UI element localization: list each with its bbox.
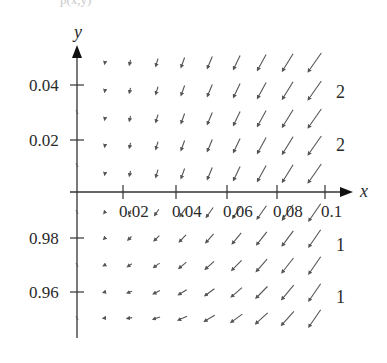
- side-label: 2: [336, 82, 345, 102]
- y-axis-arrowhead-icon: [72, 45, 82, 58]
- field-arrow: [283, 82, 293, 99]
- field-arrow: [234, 56, 240, 69]
- x-tick-label: 0.04: [172, 202, 202, 221]
- field-arrow: [156, 170, 158, 177]
- x-tick-label: 0.08: [273, 202, 303, 221]
- y-axis-label: y: [72, 22, 82, 42]
- field-arrow: [130, 60, 131, 64]
- field-arrow: [208, 140, 213, 151]
- y-tick-label: 0.02: [29, 131, 59, 150]
- field-arrow: [155, 209, 159, 214]
- field-arrow: [104, 237, 105, 238]
- field-arrow: [180, 262, 187, 268]
- x-axis-arrowhead-icon: [340, 187, 353, 197]
- field-arrow: [309, 257, 320, 273]
- field-arrow: [156, 87, 158, 94]
- field-arrow: [309, 164, 322, 182]
- field-arrow: [234, 112, 240, 125]
- field-arrow: [181, 114, 184, 123]
- field-arrow: [283, 165, 293, 182]
- field-arrow: [155, 236, 160, 241]
- field-arrow: [309, 136, 322, 154]
- field-arrow: [258, 55, 266, 70]
- field-arrow: [208, 168, 213, 179]
- field-arrow: [309, 284, 320, 300]
- field-arrow: [181, 141, 184, 150]
- field-arrow: [130, 116, 131, 120]
- field-arrow: [257, 287, 268, 298]
- field-arrow: [181, 58, 184, 67]
- field-arrow: [282, 311, 294, 324]
- x-tick-label: 0.02: [119, 202, 149, 221]
- field-arrow: [258, 166, 266, 181]
- top-text-fragment: p(x,y): [60, 0, 91, 7]
- field-arrow: [156, 142, 158, 149]
- field-arrow: [156, 59, 158, 66]
- field-arrow: [309, 53, 322, 71]
- field-arrow: [128, 318, 132, 319]
- side-label: 1: [336, 235, 345, 255]
- field-arrow: [283, 231, 294, 245]
- field-arrow: [257, 232, 267, 244]
- field-arrow: [104, 265, 106, 266]
- direction-field-figure: p(x,y) y x 0.020.040.060.080.1 0.040.020…: [0, 0, 387, 363]
- field-arrow: [179, 316, 187, 320]
- arrow-field: [104, 53, 321, 326]
- field-arrow: [256, 313, 267, 323]
- side-label: 2: [336, 135, 345, 155]
- field-arrow: [130, 88, 131, 92]
- field-arrow: [104, 211, 105, 213]
- field-arrow: [130, 143, 131, 147]
- field-arrow: [309, 230, 320, 246]
- y-ticks: 0.040.020.980.96: [29, 76, 84, 320]
- y-tick-label: 0.04: [29, 76, 59, 95]
- field-arrow: [181, 169, 184, 178]
- field-arrow: [130, 171, 131, 175]
- field-arrow: [258, 83, 266, 98]
- y-tick-label: 0.96: [29, 283, 59, 302]
- field-arrow: [154, 263, 159, 267]
- field-arrow: [206, 261, 214, 268]
- field-arrow: [208, 113, 213, 124]
- field-arrow: [258, 138, 266, 153]
- field-arrow: [234, 167, 240, 180]
- field-arrow: [129, 237, 132, 240]
- x-axis-label: x: [359, 181, 368, 201]
- field-arrow: [156, 115, 158, 122]
- field-arrow: [283, 137, 293, 154]
- field-arrow: [234, 84, 240, 97]
- field-arrow: [258, 111, 266, 126]
- field-arrow: [128, 291, 132, 293]
- field-arrow: [309, 204, 320, 220]
- field-arrow: [234, 139, 240, 152]
- field-arrow: [282, 285, 293, 299]
- field-arrow: [205, 315, 215, 321]
- field-arrow: [258, 206, 267, 219]
- x-tick-label: 0.1: [321, 202, 342, 221]
- x-tick-label: 0.06: [223, 202, 253, 221]
- field-arrow: [154, 317, 160, 319]
- field-arrow: [104, 292, 106, 293]
- field-arrow: [233, 233, 241, 243]
- direction-field-svg: p(x,y) y x 0.020.040.060.080.1 0.040.020…: [0, 0, 387, 363]
- field-arrow: [283, 258, 294, 272]
- field-arrow: [283, 110, 293, 127]
- field-arrow: [309, 310, 320, 326]
- field-arrow: [179, 290, 186, 295]
- field-arrow: [181, 86, 184, 95]
- field-arrow: [309, 81, 322, 99]
- field-arrow: [232, 260, 241, 269]
- field-arrow: [154, 291, 160, 294]
- x-ticks: 0.020.040.060.080.1: [119, 185, 342, 221]
- y-tick-label: 0.98: [29, 229, 59, 248]
- field-arrow: [180, 235, 186, 241]
- field-arrow: [206, 289, 215, 296]
- field-arrow: [257, 259, 267, 271]
- field-arrow: [232, 288, 242, 297]
- field-arrow: [128, 264, 132, 266]
- field-arrow: [283, 54, 293, 71]
- side-label: 1: [336, 287, 345, 307]
- field-arrow: [207, 208, 213, 217]
- field-arrow: [208, 85, 213, 96]
- field-arrow: [208, 57, 213, 68]
